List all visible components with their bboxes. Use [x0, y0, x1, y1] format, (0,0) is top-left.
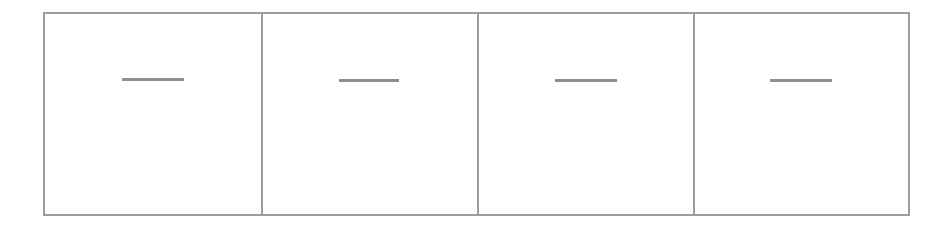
- panel-3-dash: [555, 79, 617, 82]
- panel-2-dash: [339, 79, 399, 82]
- diagram-canvas: [0, 0, 945, 226]
- panel-1-dash: [122, 78, 184, 81]
- panel-1: [45, 14, 261, 214]
- panel-strip: [43, 12, 910, 216]
- panel-2: [261, 14, 477, 214]
- panel-4-dash: [770, 79, 832, 82]
- panel-3: [477, 14, 693, 214]
- panel-4: [693, 14, 908, 214]
